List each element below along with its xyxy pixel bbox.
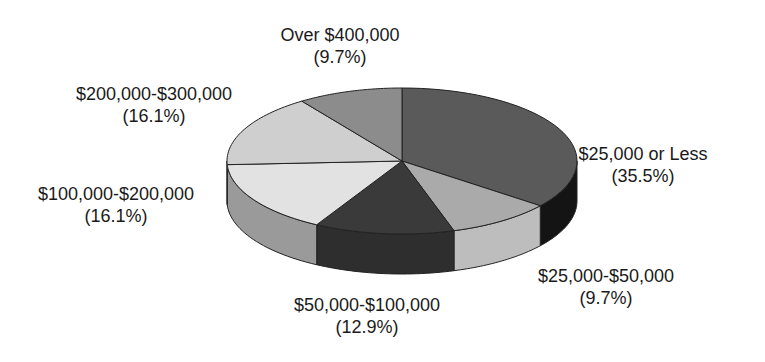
label-name: $25,000-$50,000 (538, 265, 674, 287)
pie-top-slices (227, 88, 577, 234)
label-name: $50,000-$100,000 (294, 294, 440, 316)
label-percent: (9.7%) (280, 46, 399, 68)
label-percent: (35.5%) (578, 165, 707, 187)
label-percent: (12.9%) (294, 316, 440, 338)
label-name: $100,000-$200,000 (38, 183, 194, 205)
label-percent: (16.1%) (38, 205, 194, 227)
label-slice-200k-300k: $200,000-$300,000 (16.1%) (76, 83, 232, 127)
label-name: $200,000-$300,000 (76, 83, 232, 105)
label-percent: (16.1%) (76, 105, 232, 127)
label-slice-over-400k: Over $400,000 (9.7%) (280, 24, 399, 68)
label-name: Over $400,000 (280, 24, 399, 46)
label-slice-100k-200k: $100,000-$200,000 (16.1%) (38, 183, 194, 227)
label-percent: (9.7%) (538, 287, 674, 309)
label-slice-25k-50k: $25,000-$50,000 (9.7%) (538, 265, 674, 309)
label-slice-50k-100k: $50,000-$100,000 (12.9%) (294, 294, 440, 338)
label-name: $25,000 or Less (578, 143, 707, 165)
label-slice-25k-or-less: $25,000 or Less (35.5%) (578, 143, 707, 187)
